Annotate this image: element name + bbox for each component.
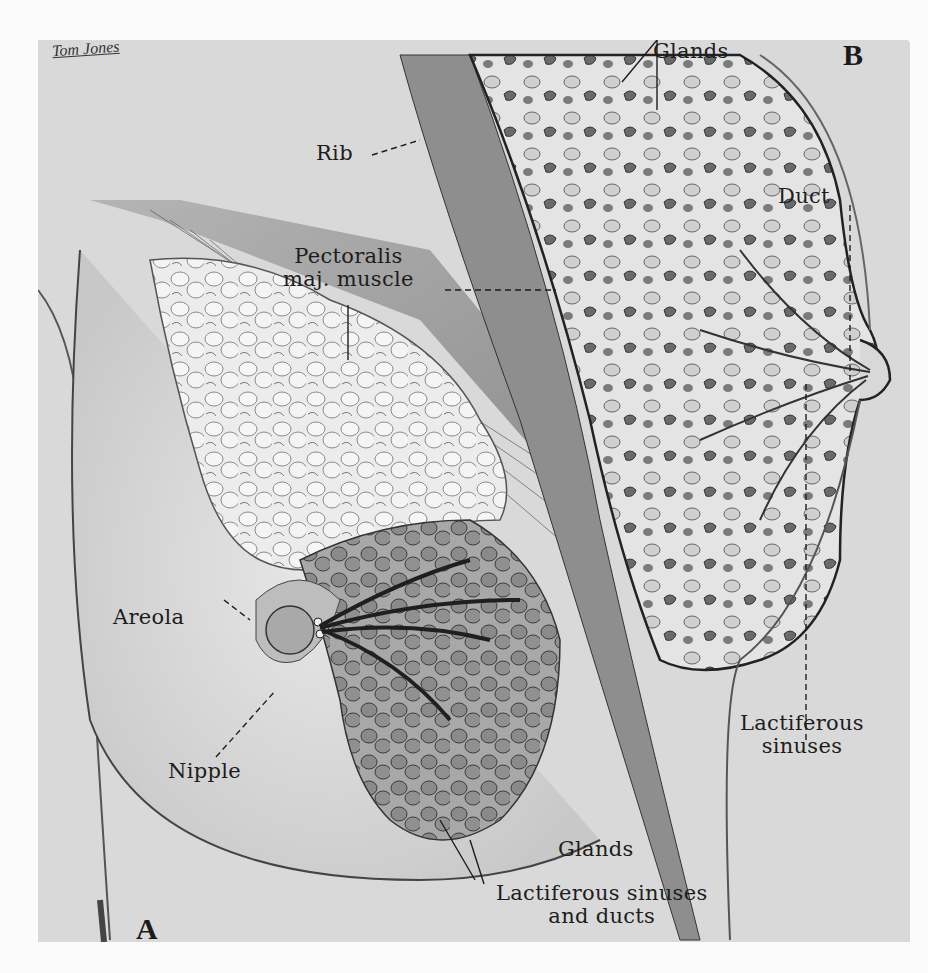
label-pectoralis-muscle: Pectoralis maj. muscle [283,245,414,291]
label-duct: Duct [778,185,830,208]
label-areola: Areola [113,606,184,629]
label-pectoralis-line1: Pectoralis [283,245,414,268]
label-lactiferous-sinuses: Lactiferous sinuses [740,712,864,758]
label-rib: Rib [316,142,353,165]
label-lactiferous-sinuses-line2: sinuses [740,735,864,758]
label-glands-bottom: Glands [558,838,634,861]
label-glands-top: Glands [653,40,729,63]
breast-anatomy-illustration [38,40,910,942]
label-sinuses-ducts-line2: and ducts [496,905,707,928]
label-pectoralis-line2: maj. muscle [283,268,414,291]
label-lactiferous-sinuses-line1: Lactiferous [740,712,864,735]
panel-label-a: A [136,912,158,942]
label-lactiferous-sinuses-and-ducts: Lactiferous sinuses and ducts [496,882,707,928]
panel-label-b: B [843,40,863,72]
label-nipple: Nipple [168,760,241,783]
illustration-plate: Tom Jones B A Glands Rib Duct Pectoralis… [38,40,910,942]
label-sinuses-ducts-line1: Lactiferous sinuses [496,882,707,905]
